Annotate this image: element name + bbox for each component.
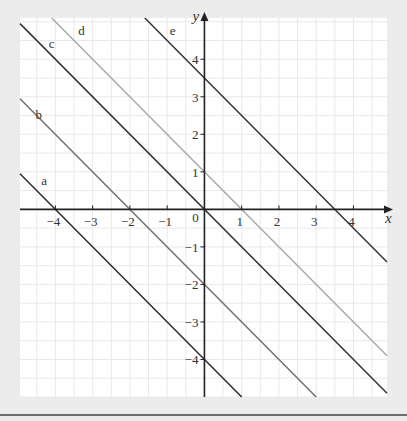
y-axis-label: y <box>190 8 199 24</box>
y-axis-arrow-icon <box>200 12 208 21</box>
y-tick-label: 3 <box>192 90 199 105</box>
y-tick-label: −1 <box>185 240 199 255</box>
x-tick-label: −3 <box>84 214 98 229</box>
chart-figure: −4−3−2−11234 4321−1−2−3−4 x y 0 abcde <box>0 0 407 421</box>
y-tick-label: 1 <box>192 165 199 180</box>
origin-label: 0 <box>192 210 199 225</box>
x-tick-label: 3 <box>311 214 318 229</box>
y-tick-label: 4 <box>192 52 199 67</box>
series-label-a: a <box>41 173 47 188</box>
y-tick-label: 2 <box>192 127 199 142</box>
series-label-d: d <box>78 23 85 38</box>
y-tick-label: −4 <box>185 352 199 367</box>
series-label-b: b <box>35 107 42 122</box>
x-axis-label: x <box>384 210 392 226</box>
x-tick-label: 1 <box>236 214 243 229</box>
bottom-divider <box>0 414 407 416</box>
chart-canvas: −4−3−2−11234 4321−1−2−3−4 x y 0 abcde <box>0 0 407 421</box>
y-tick-label: −2 <box>185 277 199 292</box>
y-tick-label: −3 <box>185 315 199 330</box>
x-tick-label: 2 <box>274 214 281 229</box>
x-tick-label: −1 <box>158 214 172 229</box>
series-label-e: e <box>170 23 176 38</box>
x-tick-label: 4 <box>348 214 355 229</box>
x-tick-label: −2 <box>121 214 135 229</box>
x-tick-label: −4 <box>46 214 60 229</box>
series-label-c: c <box>49 36 55 51</box>
